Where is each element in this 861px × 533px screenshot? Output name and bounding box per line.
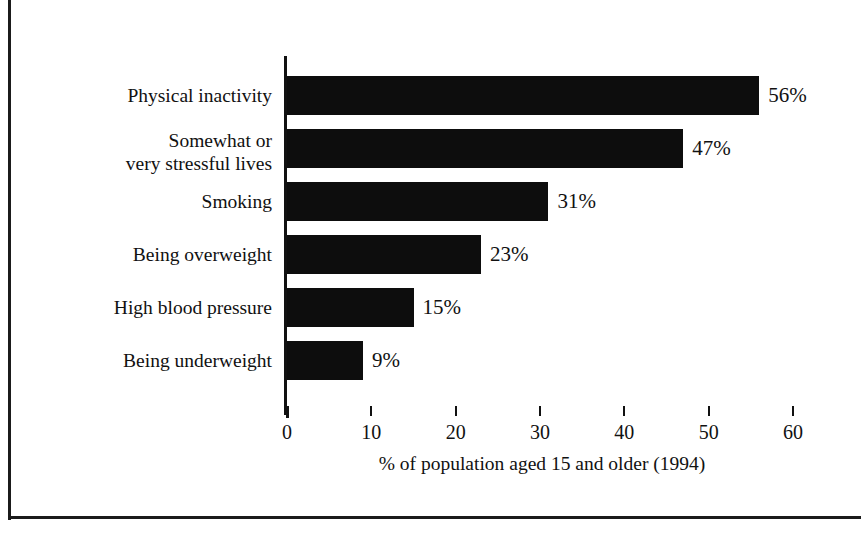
category-label: Smoking xyxy=(20,182,272,213)
category-label-row: Somewhat or very stressful lives xyxy=(20,129,272,182)
x-axis-tick-label: 60 xyxy=(783,419,803,445)
x-axis-tick-label: 50 xyxy=(699,419,719,445)
x-axis-title: % of population aged 15 and older (1994) xyxy=(287,452,797,476)
chart-page: Physical inactivity Somewhat or very str… xyxy=(0,0,861,533)
x-axis-tick-label: 10 xyxy=(361,419,381,445)
bar-value-label: 47% xyxy=(692,135,731,162)
bar-chart: Physical inactivity Somewhat or very str… xyxy=(0,0,861,533)
category-label: Being underweight xyxy=(20,341,272,372)
x-axis-tick-label: 20 xyxy=(446,419,466,445)
bar xyxy=(287,235,481,274)
bar-value-label: 56% xyxy=(768,82,807,109)
bar-row: 15% xyxy=(287,288,847,341)
x-axis-ticks xyxy=(0,406,861,418)
bar-series: 56% 47% 31% 23% 15% 9% xyxy=(287,76,847,406)
x-axis-tick-label: 0 xyxy=(282,419,292,445)
category-label: Being overweight xyxy=(20,235,272,266)
bar xyxy=(287,76,759,115)
x-axis-tick-label: 40 xyxy=(614,419,634,445)
bar-row: 56% xyxy=(287,76,847,129)
x-axis-tick-label: 30 xyxy=(530,419,550,445)
category-label-row: Being overweight xyxy=(20,235,272,288)
category-label-column: Physical inactivity Somewhat or very str… xyxy=(20,76,272,406)
category-label: Somewhat or very stressful lives xyxy=(20,129,272,175)
x-axis-tick-labels: 0102030405060 xyxy=(0,419,861,447)
category-label: High blood pressure xyxy=(20,288,272,319)
bar-row: 47% xyxy=(287,129,847,182)
category-label-row: Physical inactivity xyxy=(20,76,272,129)
category-label-row: High blood pressure xyxy=(20,288,272,341)
category-label-row: Smoking xyxy=(20,182,272,235)
bar xyxy=(287,288,414,327)
category-label: Physical inactivity xyxy=(20,76,272,107)
category-label-row: Being underweight xyxy=(20,341,272,394)
x-axis-tick xyxy=(286,406,289,418)
bar xyxy=(287,341,363,380)
bar xyxy=(287,129,683,168)
bar-value-label: 31% xyxy=(557,188,596,215)
x-axis-tick xyxy=(370,406,372,416)
bar-row: 9% xyxy=(287,341,847,394)
x-axis-tick xyxy=(792,406,794,416)
x-axis-tick xyxy=(455,406,457,416)
bar-value-label: 23% xyxy=(490,241,529,268)
x-axis-tick xyxy=(539,406,541,416)
x-axis-tick xyxy=(623,406,625,416)
bar-value-label: 15% xyxy=(423,294,462,321)
bar xyxy=(287,182,548,221)
bar-row: 31% xyxy=(287,182,847,235)
bar-row: 23% xyxy=(287,235,847,288)
x-axis-tick xyxy=(708,406,710,416)
bar-value-label: 9% xyxy=(372,347,400,374)
